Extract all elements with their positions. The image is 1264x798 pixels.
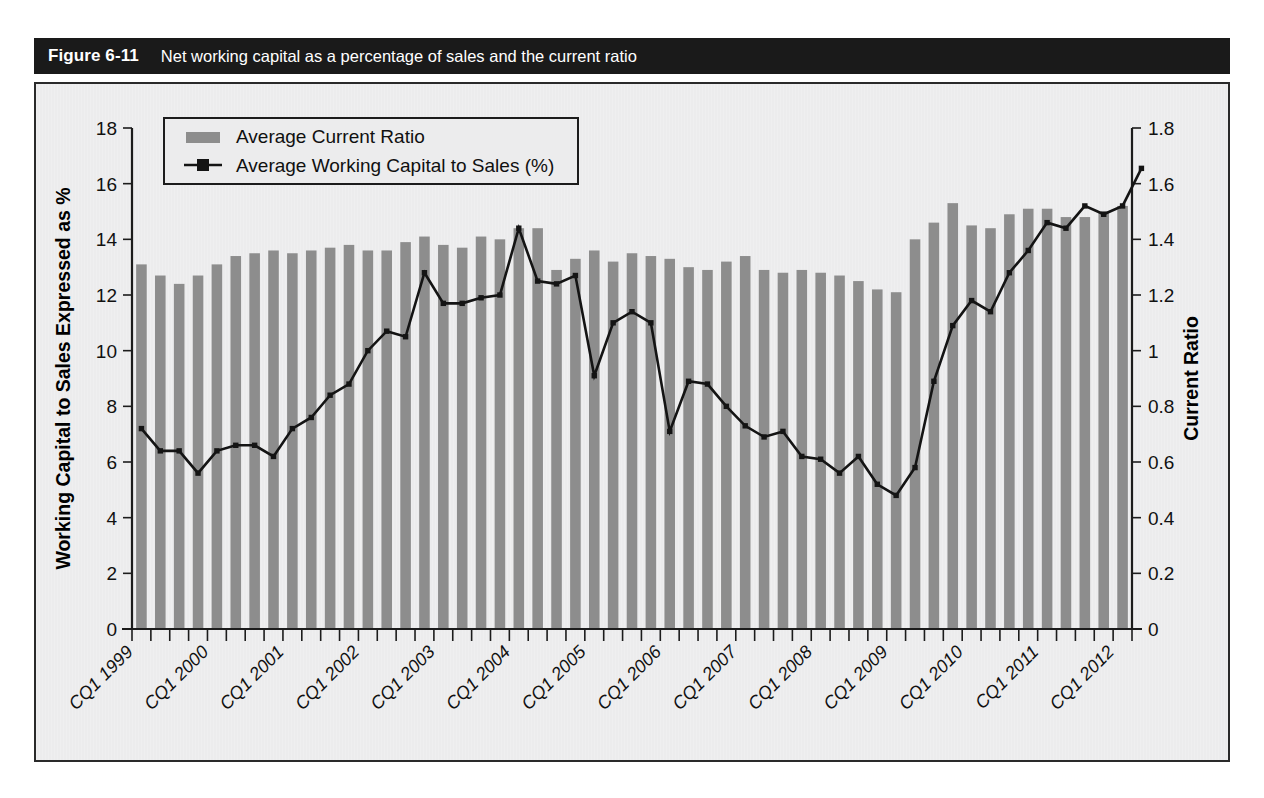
bar (834, 276, 845, 629)
bar (249, 253, 260, 629)
bar (815, 273, 826, 629)
y-tick-label-left: 8 (106, 396, 117, 417)
line-marker (158, 448, 163, 453)
figure-number: Figure 6-11 (48, 46, 139, 66)
chart-svg: 02468101214161800.20.40.60.811.21.41.61.… (36, 84, 1232, 764)
bar (381, 250, 392, 629)
line-marker (327, 393, 332, 398)
figure-caption-bar: Figure 6-11 Net working capital as a per… (34, 38, 1230, 74)
bar (193, 276, 204, 629)
bar (702, 270, 713, 629)
line-marker (309, 415, 314, 420)
y-tick-label-left: 4 (106, 508, 117, 529)
chart-legend: Average Current RatioAverage Working Cap… (164, 118, 578, 184)
y-axis-title-right: Current Ratio (1180, 316, 1202, 441)
line-marker (818, 457, 823, 462)
figure-panel: 02468101214161800.20.40.60.811.21.41.61.… (34, 82, 1230, 762)
bar (891, 292, 902, 629)
line-marker (988, 309, 993, 314)
x-axis-category-label: CQ1 1999 (65, 642, 137, 714)
y-tick-label-right: 1.6 (1148, 174, 1174, 195)
bar (985, 228, 996, 629)
y-tick-label-right: 0.6 (1148, 452, 1174, 473)
x-axis-category-label: CQ1 2001 (216, 642, 288, 714)
line-marker (912, 465, 917, 470)
y-tick-label-left: 10 (96, 341, 117, 362)
y-tick-label-left: 6 (106, 452, 117, 473)
bar-series-group (136, 203, 1128, 629)
line-marker (1082, 203, 1087, 208)
y-tick-label-right: 1.4 (1148, 229, 1175, 250)
bar (872, 289, 883, 629)
line-marker (856, 454, 861, 459)
x-axis-labels-group: CQ1 1999CQ1 2000CQ1 2001CQ1 2002CQ1 2003… (65, 641, 1118, 714)
y-tick-label-right: 1 (1148, 341, 1159, 362)
y-tick-label-left: 16 (96, 174, 117, 195)
bar (608, 262, 619, 629)
bar (1042, 209, 1053, 629)
line-marker (516, 226, 521, 231)
legend-label-current-ratio: Average Current Ratio (236, 126, 425, 147)
line-marker (667, 429, 672, 434)
line-marker (139, 426, 144, 431)
line-marker (403, 334, 408, 339)
line-marker (931, 379, 936, 384)
y-tick-label-right: 1.8 (1148, 118, 1174, 139)
line-marker (780, 429, 785, 434)
line-marker (592, 373, 597, 378)
line-marker (573, 273, 578, 278)
line-marker (422, 270, 427, 275)
line-marker (705, 381, 710, 386)
x-axis-category-label: CQ1 2010 (895, 642, 967, 714)
line-marker (271, 454, 276, 459)
bar (1004, 214, 1015, 629)
y-tick-label-right: 0 (1148, 619, 1159, 640)
bar (287, 253, 298, 629)
bar (306, 250, 317, 629)
bar (589, 250, 600, 629)
bar (966, 225, 977, 629)
bar (1098, 212, 1109, 630)
line-marker (1139, 166, 1144, 171)
line-marker (497, 292, 502, 297)
bar (551, 270, 562, 629)
bar (325, 248, 336, 629)
line-marker (214, 448, 219, 453)
line-marker (1101, 212, 1106, 217)
line-marker (554, 281, 559, 286)
y-tick-label-left: 0 (106, 619, 117, 640)
line-marker (761, 434, 766, 439)
bar (778, 273, 789, 629)
bar (1117, 206, 1128, 629)
bar (344, 245, 355, 629)
line-marker (950, 323, 955, 328)
x-axis-category-label: CQ1 2009 (819, 642, 891, 714)
bar (759, 270, 770, 629)
bar (646, 256, 657, 629)
x-axis-category-label: CQ1 2005 (517, 641, 590, 714)
bar (363, 250, 374, 629)
line-marker (743, 423, 748, 428)
line-marker (1007, 270, 1012, 275)
line-marker (875, 482, 880, 487)
y-tick-label-right: 0.4 (1148, 508, 1175, 529)
figure-title: Net working capital as a percentage of s… (161, 47, 637, 66)
line-marker (1063, 226, 1068, 231)
bar (570, 259, 581, 629)
line-marker (724, 404, 729, 409)
y-tick-label-right: 0.2 (1148, 563, 1174, 584)
y-tick-label-left: 14 (96, 229, 118, 250)
legend-swatch-bar (186, 132, 220, 143)
x-axis-category-label: CQ1 2008 (744, 642, 816, 714)
line-marker (1044, 220, 1049, 225)
bar (230, 256, 241, 629)
line-marker (290, 426, 295, 431)
line-marker (195, 470, 200, 475)
y-tick-label-right: 1.2 (1148, 285, 1174, 306)
x-axis-category-label: CQ1 2012 (1046, 642, 1118, 714)
bar (1023, 209, 1034, 629)
line-marker (799, 454, 804, 459)
bar (419, 237, 430, 629)
line-marker (441, 301, 446, 306)
bar (664, 259, 675, 629)
